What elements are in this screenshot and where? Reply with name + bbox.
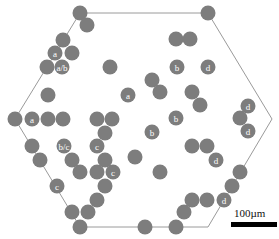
circle [138,220,153,235]
circle [81,205,96,220]
circle-marker [193,98,208,113]
circle-marker [128,150,143,165]
circle-label: b [175,63,180,73]
circle [73,165,88,180]
circle [41,88,56,103]
circle-label: d [246,102,251,112]
circle-marker [103,60,118,75]
circle-label: d [206,63,211,73]
labeled-circle: c [90,139,105,154]
circle-label: b [150,128,155,138]
circle [169,32,184,47]
circle [80,18,95,33]
circle-label: a [30,115,34,125]
circle [41,112,56,127]
circle-marker [200,139,215,154]
circle [193,98,208,113]
circle-marker [25,139,40,154]
scale-bar [231,222,277,227]
circle-marker [98,179,113,194]
circle-label: d [214,156,219,166]
circle-marker [40,60,55,75]
circle-marker [90,193,105,208]
circle-marker [233,111,248,126]
circle-marker [225,179,240,194]
scale-bar-label: 100µm [234,207,265,219]
circle [233,165,248,180]
circle [40,60,55,75]
circle-marker [169,220,184,235]
labeled-circle: d [217,193,232,208]
circle-marker [153,165,168,180]
circle-label: d [246,127,251,137]
circle [98,179,113,194]
circle-marker [185,139,200,154]
circle-marker [201,6,216,21]
circle [200,193,215,208]
circle [65,46,80,61]
labeled-circle: c [106,165,121,180]
circle-marker [65,46,80,61]
circle [177,205,192,220]
circle-marker [98,126,113,141]
circle [90,193,105,208]
circle [25,139,40,154]
labeled-circle: b [145,125,160,140]
circle-marker [105,112,120,127]
circle [98,126,113,141]
labeled-circle: b/c [57,139,72,154]
circle-marker [177,205,192,220]
circle [169,220,184,235]
circle [153,85,168,100]
circle-marker [73,220,88,235]
circle [73,220,88,235]
hexagonal-layout-diagram: aa/bbdadabbdb/ccdccd [0,0,279,239]
circle-marker [183,32,198,47]
circle-label: a/b [57,63,68,73]
circle-marker [80,18,95,33]
circle [33,153,48,168]
circle-marker [90,112,105,127]
circle [105,112,120,127]
labeled-circle: a [121,88,136,103]
labeled-circle: d [209,153,224,168]
circle [185,139,200,154]
circle-label: a [126,91,130,101]
circle [233,111,248,126]
circle [90,165,105,180]
circle-marker [41,112,56,127]
circle [200,139,215,154]
circle-marker [200,193,215,208]
labeled-circle: a [48,46,63,61]
circle [56,112,71,127]
circle-label: c [95,142,99,152]
labeled-circle: d [241,124,256,139]
circle [90,112,105,127]
circle [103,60,118,75]
circle [201,6,216,21]
circle-marker [169,32,184,47]
circle [185,85,200,100]
circle-marker [41,88,56,103]
circle-label: d [222,196,227,206]
labeled-circle: a/b [55,60,70,75]
circle-marker [73,165,88,180]
circle-marker [90,165,105,180]
circle-marker [81,205,96,220]
labeled-circle: b [170,60,185,75]
circle [65,205,80,220]
labeled-circle: c [50,179,65,194]
circle-group: aa/bbdadabbdb/ccdccd [8,6,256,235]
circle-label: c [111,168,115,178]
labeled-circle: a [25,112,40,127]
circle-marker [185,85,200,100]
circle-marker [233,165,248,180]
circle [56,33,71,48]
circle [8,112,23,127]
circle-marker [8,112,23,127]
circle-marker [65,205,80,220]
circle-marker [33,153,48,168]
circle-label: b [174,114,179,124]
circle-label: c [55,182,59,192]
circle-marker [138,220,153,235]
